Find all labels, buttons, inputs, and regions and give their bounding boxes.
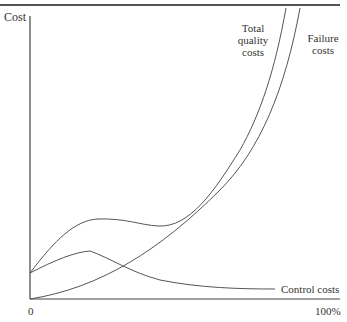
cost-chart: [0, 0, 347, 322]
control-costs-label: Control costs: [281, 283, 339, 295]
failure-costs-label: Failure costs: [302, 32, 344, 56]
x-axis-min-label: 0: [28, 305, 34, 317]
control-costs-curve: [30, 251, 275, 289]
x-axis-max-label: 100%: [315, 305, 341, 317]
total-quality-costs-label: Total quality costs: [232, 22, 274, 58]
y-axis-label: Cost: [4, 11, 26, 23]
